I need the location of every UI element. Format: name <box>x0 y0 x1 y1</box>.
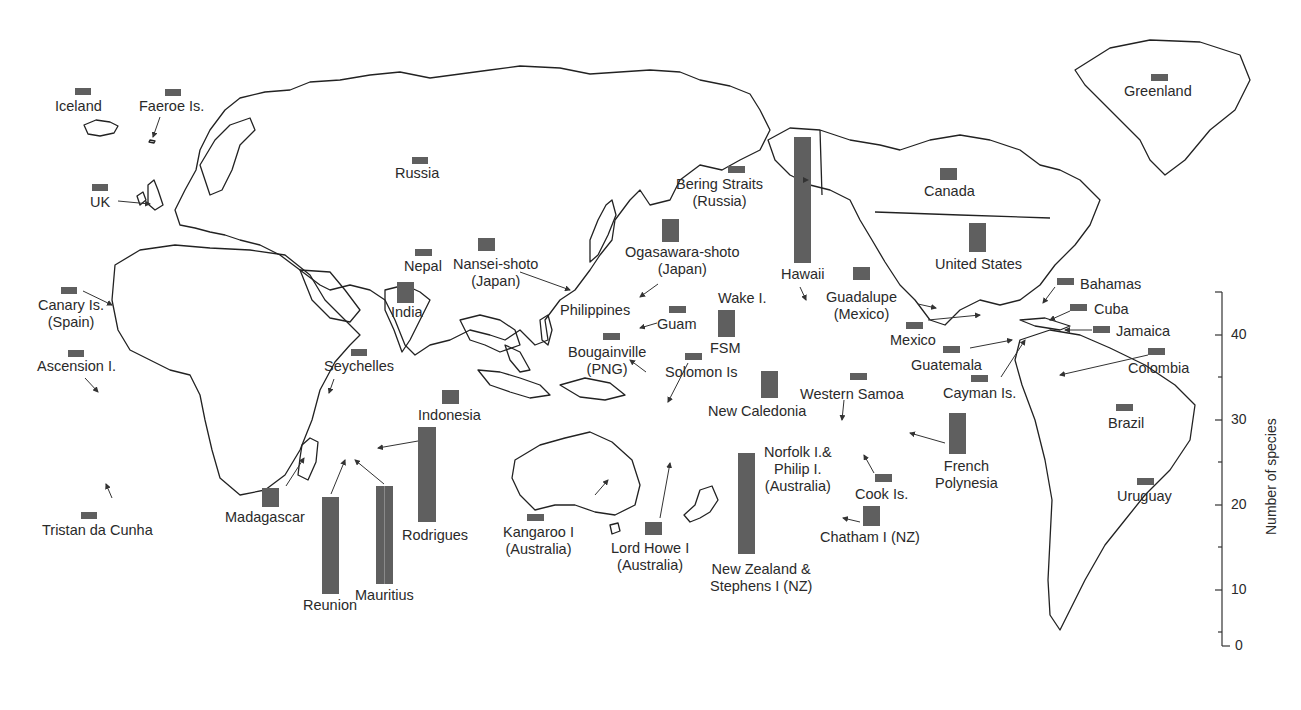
tick-label-30: 30 <box>1231 411 1247 427</box>
tick-label-20: 20 <box>1231 496 1247 512</box>
tick-label-40: 40 <box>1231 326 1247 342</box>
y-axis-title: Number of species <box>1263 418 1279 535</box>
tick-label-10: 10 <box>1231 581 1247 597</box>
leader-arrows <box>0 0 1301 710</box>
tick-label-0: 0 <box>1235 637 1243 653</box>
